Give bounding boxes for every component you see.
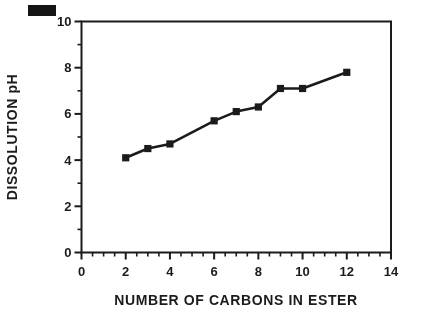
y-axis-title: DISSOLUTION pH xyxy=(4,74,20,201)
x-tick-label: 10 xyxy=(295,264,309,279)
scanned-figure: 024681012140246810 NUMBER OF CARBONS IN … xyxy=(0,0,421,320)
data-point-marker xyxy=(166,140,173,147)
y-tick-label: 2 xyxy=(64,199,71,214)
y-tick-label: 4 xyxy=(64,153,72,168)
x-tick-label: 8 xyxy=(255,264,262,279)
y-tick-label: 0 xyxy=(64,245,71,260)
x-tick-label: 14 xyxy=(384,264,399,279)
data-point-marker xyxy=(233,108,240,115)
data-point-marker xyxy=(211,117,218,124)
plot-frame xyxy=(82,22,392,253)
data-point-marker xyxy=(144,145,151,152)
x-tick-label: 12 xyxy=(340,264,354,279)
x-tick-label: 2 xyxy=(122,264,129,279)
y-tick-label: 8 xyxy=(64,60,71,75)
plot-layer: 024681012140246810 xyxy=(57,14,399,279)
x-tick-label: 4 xyxy=(166,264,174,279)
data-point-marker xyxy=(299,85,306,92)
data-point-marker xyxy=(277,85,284,92)
line-chart: 024681012140246810 NUMBER OF CARBONS IN … xyxy=(0,0,421,320)
y-tick-label: 10 xyxy=(57,14,71,29)
y-tick-label: 6 xyxy=(64,106,71,121)
x-tick-label: 0 xyxy=(78,264,85,279)
data-point-marker xyxy=(343,69,350,76)
data-point-marker xyxy=(122,154,129,161)
x-axis-title: NUMBER OF CARBONS IN ESTER xyxy=(114,292,358,308)
x-tick-label: 6 xyxy=(211,264,218,279)
data-point-marker xyxy=(255,103,262,110)
